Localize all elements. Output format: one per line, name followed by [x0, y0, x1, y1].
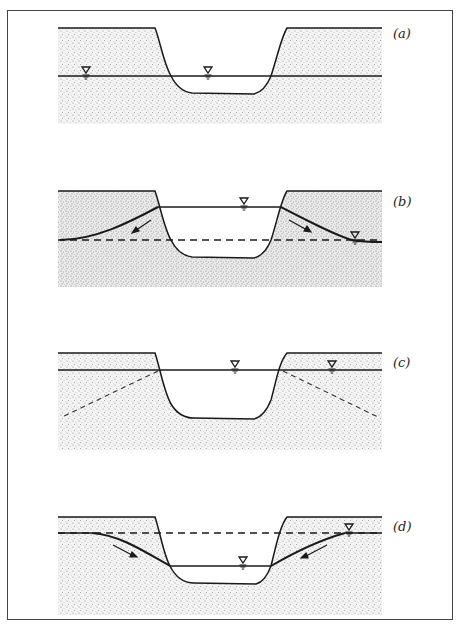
- panel-label-b: (b): [393, 194, 411, 209]
- panel-label-a: (a): [393, 26, 411, 41]
- panel-d: [58, 517, 382, 615]
- stream-stage-symbol: [231, 361, 239, 373]
- stream-stage-symbol: [204, 67, 212, 79]
- diagram-canvas: [0, 0, 462, 633]
- stream-stage-symbol: [239, 557, 247, 569]
- panel-c: [58, 353, 382, 450]
- panel-label-d: (d): [393, 519, 411, 534]
- panel-a: [58, 28, 382, 124]
- panel-b: [58, 191, 382, 287]
- stream-stage-symbol: [240, 198, 248, 210]
- panel-label-c: (c): [393, 355, 410, 370]
